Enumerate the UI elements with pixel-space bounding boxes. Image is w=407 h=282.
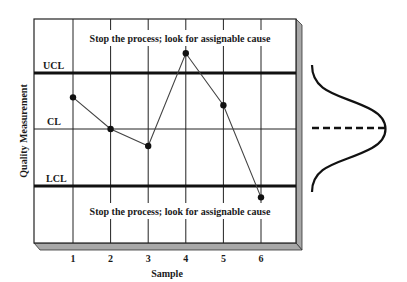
- x-tick-label: 1: [71, 253, 76, 264]
- control-chart: UCL CL LCL Stop the process; look for as…: [0, 0, 407, 282]
- bottom-annotation: Stop the process; look for assignable ca…: [90, 206, 271, 217]
- data-point: [107, 126, 113, 132]
- x-axis-title: Sample: [151, 268, 183, 279]
- ucl-label: UCL: [43, 60, 64, 71]
- x-tick-label: 6: [259, 253, 264, 264]
- data-point: [145, 143, 151, 149]
- x-tick-label: 5: [221, 253, 226, 264]
- data-point: [220, 102, 226, 108]
- y-axis-title: Quality Measurement: [18, 84, 29, 178]
- x-tick-label: 2: [108, 253, 113, 264]
- x-tick-label: 3: [146, 253, 151, 264]
- data-point: [183, 50, 189, 56]
- x-tick-label: 4: [183, 253, 188, 264]
- lcl-label: LCL: [46, 173, 67, 184]
- x-tick-labels: 123456: [71, 253, 264, 264]
- frame-right-edge: [296, 19, 302, 250]
- data-point: [70, 94, 76, 100]
- cl-label: CL: [47, 116, 61, 127]
- data-point: [258, 194, 264, 200]
- frame-bottom-edge: [34, 243, 302, 250]
- control-chart-svg: UCL CL LCL Stop the process; look for as…: [0, 0, 407, 282]
- top-annotation: Stop the process; look for assignable ca…: [90, 33, 271, 44]
